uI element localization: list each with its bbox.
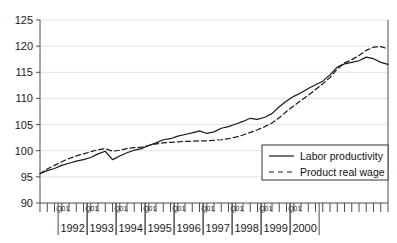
year-label: 1996: [176, 222, 200, 234]
y-tick-label: 95: [21, 171, 33, 183]
year-label: 2000: [292, 222, 316, 234]
y-axis-ticks: 9095100105110115120125: [15, 14, 40, 209]
legend-label-1: Labor productivity: [300, 150, 384, 162]
year-label: 1998: [234, 222, 258, 234]
year-label: 1993: [89, 222, 113, 234]
y-tick-label: 100: [15, 145, 33, 157]
y-tick-label: 120: [15, 40, 33, 52]
year-label: 1999: [263, 222, 287, 234]
y-tick-label: 110: [15, 92, 33, 104]
line-chart: 9095100105110115120125 Q01Q01Q01Q01Q01Q0…: [0, 0, 397, 243]
year-label: 1992: [60, 222, 84, 234]
legend-label-2: Product real wage: [300, 166, 385, 178]
year-label: 1994: [118, 222, 142, 234]
year-label: 1997: [205, 222, 229, 234]
y-tick-label: 125: [15, 14, 33, 26]
y-tick-label: 105: [15, 119, 33, 131]
y-tick-label: 115: [15, 66, 33, 78]
y-tick-label: 90: [21, 197, 33, 209]
year-label: 1995: [147, 222, 171, 234]
chart-figure: 9095100105110115120125 Q01Q01Q01Q01Q01Q0…: [0, 0, 397, 243]
chart-legend: Labor productivityProduct real wage: [262, 145, 388, 180]
year-axis-labels: 199219931994199519961997199819992000: [60, 222, 316, 234]
